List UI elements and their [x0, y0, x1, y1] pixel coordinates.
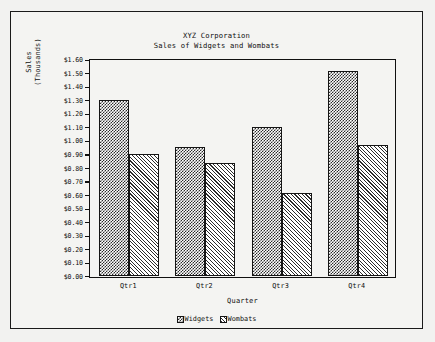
legend-swatch-icon — [220, 316, 227, 323]
legend-label: Widgets — [185, 315, 214, 323]
legend-label: Wombats — [228, 315, 257, 323]
y-axis-tick-label: $1.10 — [64, 123, 83, 131]
plot-area — [89, 59, 396, 278]
bar-group — [167, 60, 243, 276]
y-axis-tick-label: $1.20 — [64, 110, 83, 118]
y-axis-tick-label: $0.60 — [64, 191, 83, 199]
x-axis-tick-label: Qtr3 — [272, 282, 289, 290]
bar-widgets-qtr3[interactable] — [252, 127, 282, 276]
bar-wombats-qtr1[interactable] — [129, 154, 159, 276]
y-axis-tick-label: $1.00 — [64, 137, 83, 145]
chart-title-block: XYZ Corporation Sales of Widgets and Wom… — [11, 31, 422, 51]
y-axis-tick-label: $0.20 — [64, 245, 83, 253]
bars-layer — [91, 60, 394, 276]
x-axis-title: Quarter — [89, 297, 396, 305]
bar-widgets-qtr2[interactable] — [175, 147, 205, 276]
x-axis-tick-label: Qtr4 — [348, 282, 365, 290]
chart-legend: WidgetsWombats — [11, 315, 422, 323]
y-axis-tick-label: $0.40 — [64, 218, 83, 226]
x-axis-ticks: Qtr1Qtr2Qtr3Qtr4 — [89, 279, 396, 293]
y-axis-tick-label: $0.00 — [64, 272, 83, 280]
y-axis-tick-label: $0.30 — [64, 232, 83, 240]
y-axis-tick-label: $0.80 — [64, 164, 83, 172]
bar-widgets-qtr1[interactable] — [99, 100, 129, 276]
x-axis-tick-label: Qtr2 — [196, 282, 213, 290]
legend-item-wombats[interactable]: Wombats — [220, 315, 257, 323]
legend-swatch-icon — [177, 316, 184, 323]
y-axis-ticks: $1.60$1.50$1.40$1.30$1.20$1.10$1.00$0.90… — [11, 59, 89, 278]
chart-title: XYZ Corporation — [11, 31, 422, 41]
chart-frame: XYZ Corporation Sales of Widgets and Wom… — [10, 11, 423, 329]
y-axis-tick-label: $0.10 — [64, 259, 83, 267]
x-axis-tick-label: Qtr1 — [120, 282, 137, 290]
y-axis-tick-label: $0.90 — [64, 150, 83, 158]
y-axis-tick-label: $1.60 — [64, 56, 83, 64]
bar-group — [320, 60, 396, 276]
y-axis-tick-label: $1.50 — [64, 69, 83, 77]
y-axis-tick-label: $1.30 — [64, 96, 83, 104]
y-axis-tick-label: $1.40 — [64, 83, 83, 91]
bar-wombats-qtr2[interactable] — [205, 163, 235, 275]
y-axis-tick-label: $0.70 — [64, 178, 83, 186]
chart-subtitle: Sales of Widgets and Wombats — [11, 41, 422, 51]
bar-group — [243, 60, 319, 276]
legend-item-widgets[interactable]: Widgets — [177, 315, 214, 323]
y-axis-tick-label: $0.50 — [64, 205, 83, 213]
bar-wombats-qtr4[interactable] — [358, 145, 388, 276]
bar-widgets-qtr4[interactable] — [328, 71, 358, 275]
bar-wombats-qtr3[interactable] — [282, 193, 312, 276]
bar-group — [91, 60, 167, 276]
